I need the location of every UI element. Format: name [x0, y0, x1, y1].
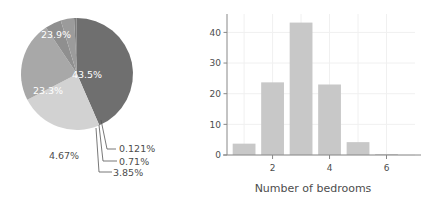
bar-rect-5	[347, 142, 370, 155]
figure-root: 43.5% 23.9% 23.3% 4.67% 3.85% 0.71% 0.12…	[0, 0, 423, 203]
bar-rect-2	[261, 82, 284, 155]
pie-leader-line-1	[99, 125, 117, 161]
pie-chart-panel: 43.5% 23.9% 23.3% 4.67% 3.85% 0.71% 0.12…	[0, 0, 195, 203]
pie-label-slice-4: 3.85%	[113, 167, 143, 178]
pie-label-slice-1: 23.9%	[41, 29, 71, 40]
pie-label-slice-3: 4.67%	[49, 150, 79, 161]
pie-leader-line-0	[101, 120, 116, 149]
bar-x-tick-label-1: 4	[327, 163, 333, 173]
bar-x-tick-label-0: 2	[270, 163, 276, 173]
bar-x-axis-title: Number of bedrooms	[255, 182, 372, 195]
bar-y-tick-label-2: 20	[210, 89, 222, 99]
pie-chart-svg: 43.5% 23.9% 23.3% 4.67% 3.85% 0.71% 0.12…	[0, 0, 195, 203]
bar-y-tick-label-1: 10	[210, 120, 222, 130]
bar-y-axis-ticks: 010203040	[210, 28, 227, 161]
bar-rect-1	[233, 144, 256, 155]
pie-label-slice-2: 23.3%	[33, 85, 63, 96]
bar-chart-svg: 010203040 246 Number of bedrooms	[195, 0, 423, 203]
bar-y-tick-label-0: 0	[215, 150, 221, 160]
bar-y-tick-label-4: 40	[210, 28, 222, 38]
bar-x-axis-ticks: 246	[270, 155, 390, 173]
bar-x-tick-label-2: 6	[384, 163, 390, 173]
bar-rect-4	[318, 85, 341, 156]
bar-chart-panel: 010203040 246 Number of bedrooms	[195, 0, 423, 203]
pie-leader-lines	[96, 120, 117, 172]
pie-label-slice-0: 43.5%	[72, 69, 102, 80]
pie-label-slice-5: 0.71%	[119, 156, 149, 167]
bar-series-group	[233, 23, 398, 155]
bar-y-tick-label-3: 30	[210, 58, 222, 68]
pie-label-slice-6: 0.121%	[119, 143, 155, 154]
bar-rect-3	[290, 23, 313, 155]
